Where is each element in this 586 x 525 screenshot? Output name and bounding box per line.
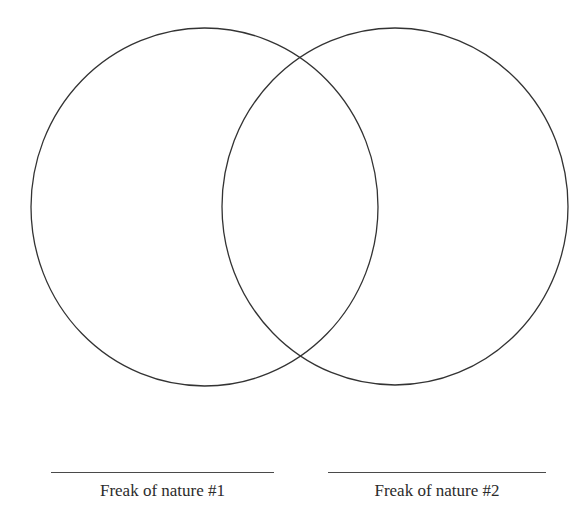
venn-circle-left xyxy=(31,28,378,386)
venn-diagram xyxy=(0,0,586,525)
label-underline-1 xyxy=(51,472,274,473)
venn-label-right: Freak of nature #2 xyxy=(328,481,546,501)
venn-label-left: Freak of nature #1 xyxy=(51,481,274,501)
venn-circle-right xyxy=(222,28,568,385)
label-underline-2 xyxy=(328,472,546,473)
